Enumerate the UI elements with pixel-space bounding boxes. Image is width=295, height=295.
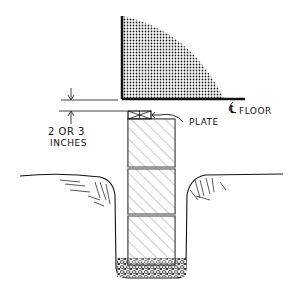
- clearance-label-1: 2 OR 3: [48, 126, 85, 137]
- floor-marker: ℄: [229, 104, 237, 115]
- clearance-label-2: INCHES: [50, 138, 87, 149]
- floor-quadrant: [122, 16, 224, 99]
- pier-diagram: ℄ FLOOR PLATE 2 OR 3 INCHES: [0, 0, 295, 295]
- plate-label: PLATE: [189, 117, 219, 128]
- diagram-drawing: [0, 0, 295, 295]
- floor-label: FLOOR: [239, 106, 272, 117]
